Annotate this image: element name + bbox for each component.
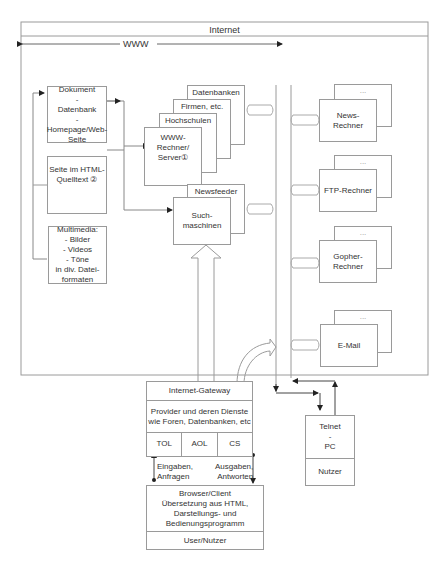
suchmaschinen-box: Such- maschinen [173, 197, 231, 245]
text-line: Anfragen [157, 472, 193, 482]
text-line: Übersetzung aus HTML, [162, 499, 249, 509]
text-line: Rechner [333, 262, 363, 272]
telnet-nutzer: Nutzer [306, 459, 354, 485]
text-line: News- [337, 111, 360, 121]
text-line: Telnet [319, 422, 340, 432]
ftp-rechner-box: FTP-Rechner [319, 169, 377, 212]
text-line: Provider und deren Dienste [151, 407, 248, 417]
text-line: - Töne [66, 255, 89, 265]
text-line: ... [360, 86, 367, 96]
text-line: PC [324, 442, 335, 452]
text-line: ... [360, 312, 367, 322]
text-line: Multimedia: [57, 225, 98, 235]
text-line: Gopher- [333, 252, 362, 262]
news-rechner-box: News- Rechner [319, 99, 377, 142]
browser-user: User/Nutzer [147, 532, 263, 549]
www-rechner-box: WWW- Rechner/ Server① [144, 127, 202, 186]
text-line: - [329, 432, 332, 442]
text-line: Server① [158, 153, 189, 163]
text-line: Seite [68, 135, 86, 145]
text-line: Rechner [333, 121, 363, 131]
text-line: Bedienungsprogramm [166, 519, 245, 529]
www-label: WWW [123, 39, 148, 49]
telnet-box: Telnet - PC Nutzer [305, 415, 355, 486]
text-line: Eingaben, [157, 462, 193, 472]
text-line: wie Foren, Datenbanken, etc [148, 417, 250, 427]
service-tol: TOL [147, 433, 182, 456]
service-aol: AOL [182, 433, 217, 456]
gateway-box: Internet-Gateway Provider und deren Dien… [146, 381, 253, 457]
gopher-rechner-box: Gopher- Rechner [319, 240, 377, 283]
text-line: Newsfeeder [195, 187, 238, 197]
gateway-title: Internet-Gateway [147, 382, 252, 401]
text-line: Darstellungs- und [174, 509, 237, 519]
internet-title: Internet [21, 22, 428, 37]
text-line: Homepage/Web- [47, 125, 107, 135]
text-line: - [76, 115, 79, 125]
multimedia-box: Multimedia: - Bilder - Videos - Töne in … [48, 226, 107, 284]
text-line: maschinen [183, 221, 222, 231]
text-line: Rechner/ [157, 143, 189, 153]
service-cs: CS [218, 433, 252, 456]
eingaben-label: Eingaben, Anfragen [157, 462, 193, 482]
text-line: Datenbanken [192, 88, 240, 98]
email-box: E-Mail [320, 324, 378, 367]
text-line: - [76, 95, 79, 105]
text-line: E-Mail [338, 341, 361, 351]
ausgaben-label: Ausgaben, Antworten [215, 462, 253, 482]
text-line: ... [360, 228, 367, 238]
internet-title-text: Internet [209, 25, 240, 35]
text-line: WWW- [160, 133, 185, 143]
html-seite-box: Seite im HTML- Quelltext ② [47, 156, 107, 214]
text-line: Ausgaben, [215, 462, 253, 472]
text-line: Seite im HTML- [49, 165, 105, 175]
browser-client: Browser/Client Übersetzung aus HTML, Dar… [147, 486, 263, 532]
text-line: Firmen, etc. [181, 102, 223, 112]
text-line: in div. Datei- [56, 265, 100, 275]
text-line: Browser/Client [179, 489, 231, 499]
text-line: ... [360, 157, 367, 167]
browser-box: Browser/Client Übersetzung aus HTML, Dar… [146, 485, 264, 550]
text-line: Hochschulen [165, 116, 211, 126]
gateway-provider: Provider und deren Dienste wie Foren, Da… [147, 401, 252, 431]
text-line: Quelltext ② [57, 175, 98, 185]
text-line: - Bilder [65, 235, 90, 245]
dokument-box: Dokument - Datenbank - Homepage/Web- Sei… [47, 86, 107, 143]
gateway-services: TOL AOL CS [147, 432, 252, 456]
text-line: FTP-Rechner [324, 186, 372, 196]
telnet-pc: Telnet - PC [306, 416, 354, 459]
text-line: Dokument [59, 85, 95, 95]
text-line: - Videos [63, 245, 92, 255]
text-line: Datenbank [58, 105, 97, 115]
text-line: Antworten [215, 472, 253, 482]
text-line: Such- [192, 211, 213, 221]
text-line: formaten [62, 275, 94, 285]
